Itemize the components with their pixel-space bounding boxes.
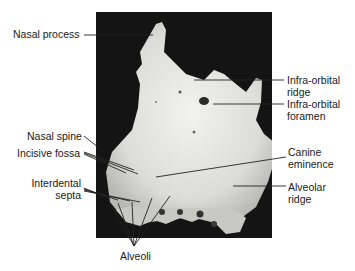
label-canine-eminence: Canine eminence: [288, 146, 334, 170]
label-alveoli: Alveoli: [120, 250, 151, 262]
label-incisive-fossa: Incisive fossa: [17, 147, 80, 159]
label-alveolar-ridge: Alveolar ridge: [288, 181, 326, 205]
label-nasal-process: Nasal process: [13, 28, 80, 40]
label-nasal-spine: Nasal spine: [27, 130, 82, 142]
label-infra-orbital-ridge: Infra-orbital ridge: [287, 74, 340, 98]
label-infra-orbital-foramen: Infra-orbital foramen: [287, 98, 340, 122]
label-interdental-septa: Interdental septa: [31, 177, 81, 201]
